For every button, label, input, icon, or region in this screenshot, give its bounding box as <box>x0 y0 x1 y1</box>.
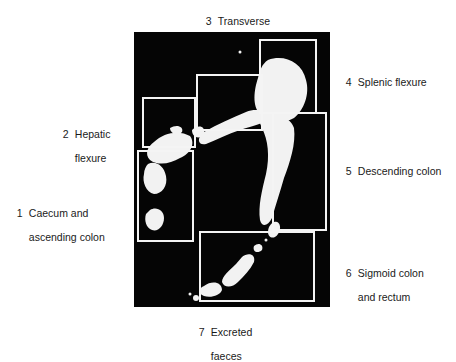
region-number: 1 <box>17 207 29 219</box>
roi-box-hepatic-flexure <box>142 97 196 148</box>
region-number: 6 <box>346 267 358 279</box>
region-label-line2: flexure <box>75 152 107 164</box>
label-sigmoid-colon-rectum: 6Sigmoid colon and rectum <box>340 255 424 303</box>
label-excreted-faeces: 7Excreted faeces <box>193 314 252 362</box>
roi-box-transverse-colon <box>196 74 263 131</box>
roi-box-sigmoid-rectum <box>199 231 315 302</box>
region-number: 5 <box>346 165 358 177</box>
region-label-line2: and rectum <box>358 291 411 303</box>
region-label-line1: Splenic flexure <box>358 76 427 88</box>
roi-box-descending-colon <box>272 112 327 231</box>
label-caecum-ascending-colon: 1Caecum and ascending colon <box>11 195 105 243</box>
region-number: 7 <box>199 326 211 338</box>
region-label-line2: ascending colon <box>29 231 105 243</box>
region-label-line2: faeces <box>211 350 242 362</box>
label-hepatic-flexure: 2Hepatic flexure <box>57 116 110 164</box>
region-number: 3 <box>206 15 218 27</box>
label-descending-colon: 5Descending colon <box>340 153 441 177</box>
region-label-line1: Caecum and <box>29 207 89 219</box>
region-label-line1: Excreted <box>211 326 252 338</box>
region-label-line1: Transverse <box>218 15 270 27</box>
roi-box-splenic-flexure <box>259 39 317 114</box>
region-label-line1: Descending colon <box>358 165 441 177</box>
region-label-line1: Hepatic <box>75 128 111 140</box>
region-number: 2 <box>63 128 75 140</box>
roi-box-caecum-ascending <box>137 150 194 242</box>
label-splenic-flexure: 4Splenic flexure <box>340 64 427 88</box>
scintigram-panel <box>134 32 330 307</box>
region-label-line1: Sigmoid colon <box>358 267 424 279</box>
region-number: 4 <box>346 76 358 88</box>
